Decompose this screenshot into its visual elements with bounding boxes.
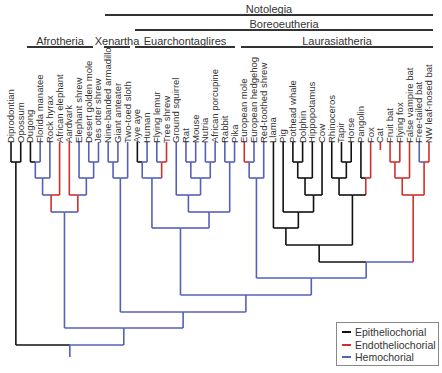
legend-label: Hemochorial — [355, 351, 414, 363]
legend-item-hemochorial: Hemochorial — [342, 351, 438, 364]
taxon-label: NW leaf-nosed bat — [424, 64, 434, 143]
legend-item-epitheliochorial: Epitheliochorial — [342, 326, 438, 339]
clade-label: Notolegia — [246, 3, 292, 15]
legend: Epitheliochorial Endotheliochorial Hemoc… — [336, 322, 439, 366]
legend-label: Epitheliochorial — [355, 326, 426, 338]
clade-label: Xenartha — [95, 35, 140, 47]
blue-line-icon — [342, 356, 351, 358]
clade-label: Laurasiatheria — [302, 35, 372, 47]
legend-item-endotheliochorial: Endotheliochorial — [342, 339, 438, 352]
phylogenetic-tree — [0, 0, 442, 373]
legend-label: Endotheliochorial — [355, 339, 436, 351]
clade-label: Boreoeutheria — [249, 18, 318, 30]
black-line-icon — [342, 331, 351, 333]
clade-label: Afrotheria — [36, 35, 84, 47]
clade-label: Euarchontaglires — [144, 35, 227, 47]
red-line-icon — [342, 344, 351, 346]
